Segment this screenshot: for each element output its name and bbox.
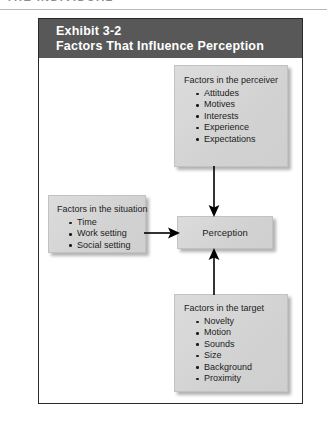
box-situation-title: Factors in the situation <box>57 204 145 215</box>
list-item: Background <box>196 362 287 373</box>
box-factors-in-the-target: Factors in the target Novelty Motion Sou… <box>174 294 288 392</box>
arrow-right-icon <box>144 225 180 241</box>
box-perceiver-list: Attitudes Motives Interests Experience E… <box>184 88 287 145</box>
list-item: Time <box>69 217 145 228</box>
arrow-up-icon <box>206 248 222 295</box>
list-item: Expectations <box>196 134 287 145</box>
box-perception-title: Perception <box>202 227 247 238</box>
exhibit-number: Exhibit 3-2 <box>56 24 302 39</box>
list-item: Proximity <box>196 373 287 384</box>
list-item: Motives <box>196 99 287 110</box>
box-situation-list: Time Work setting Social setting <box>57 217 145 251</box>
list-item: Motion <box>196 327 287 338</box>
list-item: Novelty <box>196 316 287 327</box>
box-factors-in-the-perceiver: Factors in the perceiver Attitudes Motiv… <box>174 65 288 167</box>
box-target-title: Factors in the target <box>184 303 287 314</box>
box-factors-in-the-situation: Factors in the situation Time Work setti… <box>48 195 146 253</box>
page-running-head-text: THE INDIVIDUAL <box>6 0 114 3</box>
list-item: Social setting <box>69 240 145 251</box>
list-item: Experience <box>196 122 287 133</box>
list-item: Attitudes <box>196 88 287 99</box>
list-item: Sounds <box>196 339 287 350</box>
arrow-down-icon <box>206 166 222 217</box>
box-target-list: Novelty Motion Sounds Size Background Pr… <box>184 316 287 384</box>
box-perceiver-title: Factors in the perceiver <box>184 75 287 86</box>
list-item: Work setting <box>69 228 145 239</box>
page-header-divider <box>0 9 327 10</box>
exhibit-titlebar: Exhibit 3-2 Factors That Influence Perce… <box>39 19 302 58</box>
box-perception: Perception <box>177 216 273 249</box>
list-item: Size <box>196 350 287 361</box>
page-running-head: THE INDIVIDUAL <box>0 0 327 11</box>
exhibit-figure: Exhibit 3-2 Factors That Influence Perce… <box>38 18 303 404</box>
list-item: Interests <box>196 111 287 122</box>
exhibit-title: Factors That Influence Perception <box>56 39 302 54</box>
